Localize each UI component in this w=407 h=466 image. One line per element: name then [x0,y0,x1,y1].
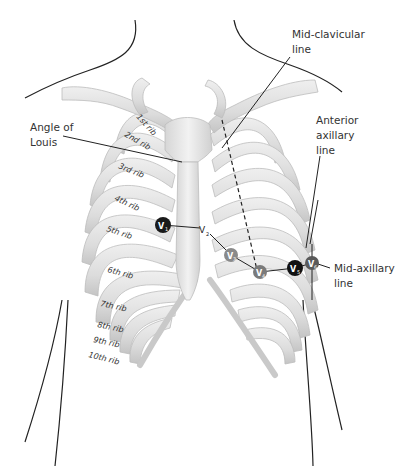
label-anterior-axillary: Anterior [316,114,359,126]
electrode-v6: V6 [305,256,319,270]
svg-text:3: 3 [233,256,236,262]
electrode-v5: V5 [287,260,303,276]
label-mid-clavicular: Mid-clavicular [292,28,365,40]
ecg-lead-placement-diagram: V1 V2 V3 V4 V5 V6 1st rib 2nd rib 3rd ri… [0,0,407,466]
svg-text:V: V [199,225,206,235]
electrode-v4: V4 [253,265,267,279]
label-mid-axillary: Mid-axillary [334,262,395,274]
svg-text:5: 5 [297,269,300,275]
svg-text:V: V [290,265,297,274]
svg-text:axillary: axillary [316,129,354,141]
svg-text:6: 6 [314,264,317,270]
svg-text:4: 4 [262,273,265,279]
svg-text:10th rib: 10th rib [88,350,121,366]
first-rib-hooks [132,78,226,118]
svg-text:V: V [158,222,165,231]
svg-text:line: line [292,43,311,55]
electrode-v1: V1 [155,217,171,233]
svg-text:2: 2 [206,231,209,237]
svg-text:line: line [316,144,335,156]
svg-text:Louis: Louis [30,136,57,148]
electrode-v3: V3 [224,248,238,262]
svg-text:line: line [334,277,353,289]
rib-cage-right [210,118,318,364]
svg-text:1: 1 [165,226,168,232]
label-angle-of-louis: Angle of [30,121,74,133]
electrode-v2: V2 [199,225,209,237]
